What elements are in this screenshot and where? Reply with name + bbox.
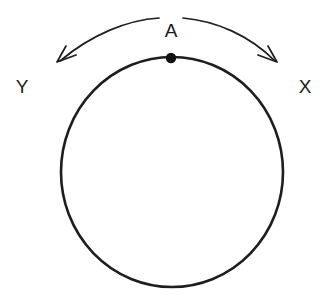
label-target-y: Y [16,76,29,97]
main-circle [61,57,283,287]
label-point-a: A [165,20,178,41]
arrow-to-y-head-icon [57,46,76,62]
point-a-dot [166,53,176,63]
diagram-canvas: A Y X [0,0,329,305]
circle-arrow-diagram: A Y X [0,0,329,305]
label-target-x: X [299,76,312,97]
arrow-to-x-shaft [183,18,275,61]
